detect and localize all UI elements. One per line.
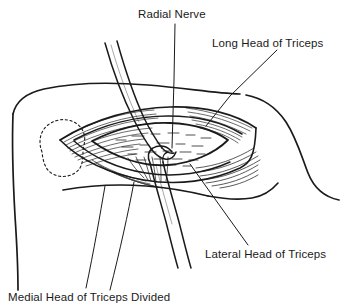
dotted-bone-outline: [40, 120, 85, 177]
leader-medial-head-a: [86, 186, 105, 288]
label-medial-head-of-triceps-divided: Medial Head of Triceps Divided: [8, 291, 170, 304]
label-lateral-head-of-triceps: Lateral Head of Triceps: [205, 248, 326, 261]
leader-radial-nerve: [172, 24, 175, 148]
leader-medial-head-b: [110, 182, 134, 290]
muscle-striations-lower-right: [196, 148, 260, 188]
radial-nerve-retractor-band: [105, 41, 176, 159]
label-radial-nerve: Radial Nerve: [138, 8, 206, 21]
label-long-head-of-triceps: Long Head of Triceps: [212, 37, 323, 50]
